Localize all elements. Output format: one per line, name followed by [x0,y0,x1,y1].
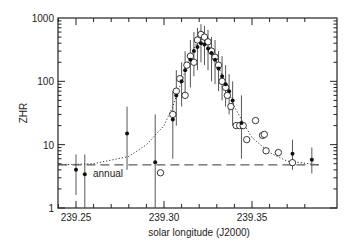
filled-circle-point [217,66,221,70]
open-circle-point [224,92,230,98]
x-tick-label: 239.35 [237,212,268,223]
filled-circle-point [210,51,214,55]
filled-circle-point [174,93,178,97]
annual-annotation: annual [93,168,123,179]
filled-circle-point [239,121,243,125]
open-circle-point [289,159,295,165]
open-circle-point [228,103,234,109]
y-tick-label: 100 [37,76,54,87]
filled-circle-point [183,68,187,72]
open-circle-point [170,111,176,117]
filled-circle-point [153,160,157,164]
data-markers [74,31,314,176]
open-circle-point [261,131,267,137]
open-circle-point [263,148,269,154]
x-axis-label: solar longitude (J2000) [148,227,250,238]
open-circle-point [275,149,281,155]
open-circle-point [182,92,188,98]
filled-circle-point [290,152,294,156]
filled-circle-point [213,58,217,62]
zhr-chart: 239.25239.30239.351101001000 ZHR solar l… [0,0,352,248]
y-tick-label: 1 [48,203,54,214]
filled-circle-point [206,46,210,50]
filled-circle-point [227,89,231,93]
x-tick-label: 239.25 [61,212,92,223]
filled-circle-point [310,158,314,162]
filled-circle-point [231,98,235,102]
y-axis-label: ZHR [18,103,29,124]
filled-circle-point [220,74,224,78]
filled-circle-point [188,58,192,62]
filled-circle-point [180,79,184,83]
filled-circle-point [125,132,129,136]
y-tick-label: 10 [43,140,55,151]
open-circle-point [244,136,250,142]
open-circle-point [184,62,190,68]
filled-circle-point [199,41,203,45]
filled-circle-point [74,168,78,172]
filled-circle-point [195,45,199,49]
open-circle-point [157,170,163,176]
x-tick-label: 239.30 [149,212,180,223]
open-circle-point [252,117,258,123]
filled-circle-point [192,49,196,53]
y-tick-label: 1000 [32,13,55,24]
filled-circle-point [83,172,87,176]
filled-circle-point [171,117,175,121]
filled-circle-point [224,82,228,86]
filled-circle-point [202,43,206,47]
